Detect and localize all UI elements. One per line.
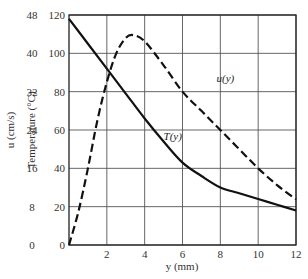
x-tick-label: 12 xyxy=(291,248,302,260)
velocity-tick-label: 0 xyxy=(29,239,35,251)
velocity-tick-label: 40 xyxy=(27,47,39,59)
chart-canvas: 24681012020406080100120081624324048 u(y)… xyxy=(0,0,308,279)
velocity-tick-label: 8 xyxy=(29,201,35,213)
temperature-tick-label: 40 xyxy=(54,162,66,174)
x-tick-label: 6 xyxy=(180,248,186,260)
x-tick-label: 10 xyxy=(253,248,265,260)
temperature-tick-label: 100 xyxy=(49,47,66,59)
temperature-axis-title: Temperature (°C) xyxy=(25,91,38,169)
temperature-tick-label: 0 xyxy=(60,239,66,251)
temperature-tick-label: 80 xyxy=(54,86,66,98)
x-tick-label: 8 xyxy=(218,248,224,260)
temperature-tick-label: 20 xyxy=(54,201,66,213)
grid xyxy=(69,15,296,245)
series-label-u: u(y) xyxy=(217,72,235,85)
temperature-tick-label: 120 xyxy=(49,9,66,21)
velocity-tick-label: 48 xyxy=(27,9,39,21)
x-axis-title: y (mm) xyxy=(166,260,199,273)
temperature-tick-label: 60 xyxy=(54,124,66,136)
series-label-T: T(y) xyxy=(164,130,183,143)
x-tick-label: 4 xyxy=(142,248,148,260)
velocity-axis-title: u (cm/s) xyxy=(4,111,17,148)
x-tick-label: 2 xyxy=(104,248,110,260)
